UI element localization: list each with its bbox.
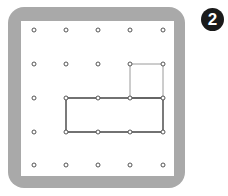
peg: [161, 163, 165, 167]
peg: [32, 28, 36, 32]
peg: [64, 96, 68, 100]
peg: [32, 62, 36, 66]
peg: [96, 130, 100, 134]
peg: [32, 163, 36, 167]
peg: [64, 28, 68, 32]
peg: [128, 96, 132, 100]
small-square-shape: [130, 64, 163, 98]
peg: [32, 96, 36, 100]
peg: [32, 130, 36, 134]
figure-number-badge: 2: [201, 8, 224, 31]
shapes-layer: [66, 64, 163, 132]
geoboard-diagram: [0, 0, 228, 196]
peg: [64, 163, 68, 167]
peg: [96, 163, 100, 167]
peg: [128, 28, 132, 32]
rectangle-shape: [66, 98, 163, 132]
peg: [96, 96, 100, 100]
peg: [161, 28, 165, 32]
peg: [128, 130, 132, 134]
peg: [128, 163, 132, 167]
peg: [96, 62, 100, 66]
peg: [161, 130, 165, 134]
peg: [161, 62, 165, 66]
peg: [96, 28, 100, 32]
peg: [128, 62, 132, 66]
peg: [64, 62, 68, 66]
peg: [161, 96, 165, 100]
peg: [64, 130, 68, 134]
